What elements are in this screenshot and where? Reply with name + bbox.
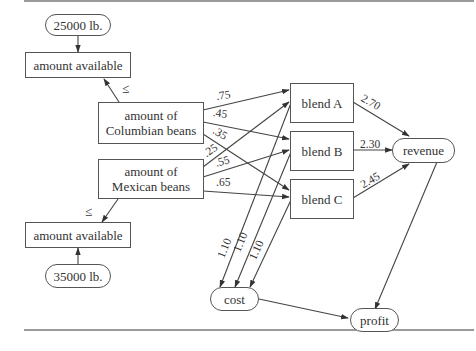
edge-revenue-to-profit [375, 162, 437, 309]
edge-mexican-to-blend-c [203, 191, 289, 197]
colombian-beans-label-line2: Columbian beans [106, 123, 197, 138]
blend-c-node: blend C [290, 179, 354, 219]
edge-blend-b-to-cost [235, 152, 291, 287]
blend-b-label: blend B [302, 144, 343, 159]
revenue-node: revenue [392, 138, 455, 163]
colombian-beans-node: amount of Columbian beans [98, 102, 204, 144]
edge-label-mexican-blend-c: .65 [216, 176, 230, 188]
profit-label: profit [360, 313, 389, 328]
profit-node: profit [350, 308, 399, 332]
mexican-available-label: amount available [33, 228, 122, 243]
edge-label-columbian-blend-a: .75 [215, 88, 231, 102]
mexican-limit-node: 35000 lb. [45, 264, 111, 288]
constraint-le-symbol-bottom: ≤ [85, 204, 92, 220]
colombian-beans-label-line1: amount of [124, 108, 177, 123]
revenue-label: revenue [403, 143, 444, 158]
mexican-beans-label-line2: Mexican beans [112, 179, 190, 194]
cost-node: cost [210, 287, 259, 311]
blend-c-label: blend C [302, 192, 343, 207]
colombian-limit-node: 25000 lb. [45, 14, 111, 36]
colombian-limit-label: 25000 lb. [53, 18, 102, 33]
edge-cost-to-profit [259, 299, 348, 318]
edge-label-columbian-blend-b: .45 [212, 106, 228, 120]
edge-mexican-to-available [102, 199, 118, 222]
mexican-beans-label-line1: amount of [124, 164, 177, 179]
colombian-available-node: amount available [25, 52, 131, 78]
constraint-le-symbol-top: ≤ [122, 81, 129, 97]
blend-b-node: blend B [290, 131, 354, 171]
mexican-limit-label: 35000 lb. [53, 269, 102, 284]
edge-columbian-to-available [104, 79, 119, 102]
mexican-available-node: amount available [25, 222, 131, 248]
blend-a-label: blend A [302, 96, 343, 111]
cost-label: cost [224, 292, 245, 307]
mexican-beans-node: amount of Mexican beans [98, 159, 204, 199]
colombian-available-label: amount available [33, 58, 122, 73]
blend-a-node: blend A [290, 83, 354, 123]
edge-blend-a-to-revenue [353, 102, 409, 136]
edge-label-blend-b-revenue: 2.30 [360, 138, 380, 150]
